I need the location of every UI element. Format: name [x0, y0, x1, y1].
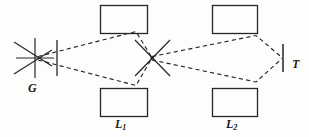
figure-canvas: G T L1 L2 — [0, 0, 309, 137]
lens2-upper-rect — [213, 6, 258, 34]
lens2-lower-rect — [213, 89, 258, 117]
lens1-upper-rect — [101, 6, 148, 34]
lower-ray-path-left — [38, 58, 152, 86]
label-lens-l1-subscript: 1 — [122, 123, 126, 132]
label-source-g: G — [28, 82, 37, 94]
label-lens-l2-subscript: 2 — [233, 123, 237, 132]
lower-ray-path-right — [152, 59, 282, 83]
source-star-icon — [14, 38, 54, 78]
lens-rectangles — [101, 6, 258, 117]
lens1-lower-rect — [101, 89, 148, 117]
upper-ray-path-left — [38, 32, 152, 59]
focus-point — [150, 56, 153, 59]
label-lens-l2: L2 — [226, 118, 237, 132]
light-rays — [38, 32, 282, 86]
label-lens-l1: L1 — [115, 118, 126, 132]
ray-diagram — [0, 0, 309, 137]
label-target-t: T — [292, 58, 299, 70]
upper-ray-path-right — [152, 36, 282, 58]
